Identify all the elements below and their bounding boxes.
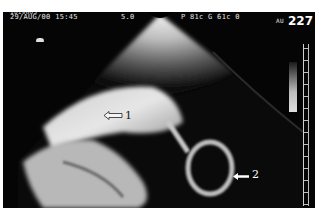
depth-readout: 5.0 [121, 13, 135, 21]
ruler-tick [304, 96, 308, 97]
ruler-tick [304, 60, 308, 61]
ruler-tick [304, 192, 308, 193]
ruler-tick [304, 204, 308, 205]
depth-scale-ticks [308, 44, 309, 206]
annotation-label-2: 2 [252, 168, 259, 181]
ruler-tick [304, 132, 308, 133]
arrow-left-icon [233, 173, 249, 180]
datetime-readout: 29/AUG/00 15:45 [10, 13, 78, 21]
ultrasound-screen: 1019803 29/AUG/00 15:45 5.0 P 81c G 61c … [3, 12, 315, 208]
frame-number: 227 [288, 14, 313, 28]
ruler-tick [304, 144, 308, 145]
ruler-tick [304, 108, 308, 109]
ruler-tick [304, 84, 308, 85]
ruler-tick [304, 48, 308, 49]
ruler-tick [304, 156, 308, 157]
hollow-arrow-left-icon [103, 111, 123, 120]
gain-params-readout: P 81c G 61c 0 [181, 13, 240, 21]
annotation-label-1: 1 [125, 109, 132, 122]
ultrasound-sector-image [3, 12, 315, 208]
ruler-tick [304, 72, 308, 73]
ruler-tick [304, 168, 308, 169]
ruler-tick [304, 180, 308, 181]
depth-scale-ruler [303, 44, 304, 206]
mode-readout: AU [276, 17, 284, 25]
grayscale-bar [289, 62, 297, 112]
ruler-tick [304, 120, 308, 121]
orientation-marker-icon [36, 38, 44, 42]
